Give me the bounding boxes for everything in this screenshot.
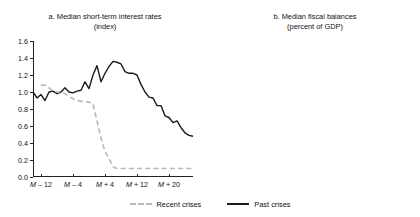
chart-figure: a. Median short-term interest rates (ind… [0, 0, 420, 217]
panel-b: b. Median fiscal balances (percent of GD… [210, 0, 420, 190]
series-line-recent-crises [41, 85, 193, 168]
y-tick-label: 1.4 [18, 54, 28, 63]
series-line-past-crises [33, 61, 193, 136]
legend-item-past-crises: Past crises [227, 200, 290, 209]
legend-item-recent-crises: Recent crises [130, 200, 202, 209]
panel-b-title-text: b. Median fiscal balances [210, 12, 420, 22]
y-tick-label: 0.6 [18, 122, 28, 131]
y-tick-mark [30, 109, 33, 110]
x-tick-mark [169, 174, 170, 177]
x-tick-mark [73, 174, 74, 177]
x-tick-mark [105, 174, 106, 177]
y-tick-label: 1.6 [18, 37, 28, 46]
y-tick-label: 1.2 [18, 71, 28, 80]
y-tick-label: 0.4 [18, 139, 28, 148]
dashed-line-icon [130, 203, 152, 205]
chart-legend: Recent crises Past crises [0, 194, 420, 214]
panel-a: a. Median short-term interest rates (ind… [0, 0, 210, 190]
y-tick-mark [30, 143, 33, 144]
legend-label-recent-crises: Recent crises [157, 200, 202, 209]
y-tick-label: 1.0 [18, 88, 28, 97]
y-tick-mark [30, 41, 33, 42]
panel-a-title: a. Median short-term interest rates (ind… [0, 12, 210, 31]
x-tick-label: M – 12 [30, 180, 52, 189]
y-tick-mark [30, 75, 33, 76]
y-tick-mark [30, 177, 33, 178]
panel-a-subtitle-text: (index) [0, 22, 210, 32]
y-tick-mark [30, 160, 33, 161]
panel-a-title-text: a. Median short-term interest rates [0, 12, 210, 22]
x-tick-label: M – 4 [64, 180, 82, 189]
y-tick-label: 0.0 [18, 173, 28, 182]
x-tick-label: M + 4 [96, 180, 114, 189]
panel-b-subtitle-text: (percent of GDP) [210, 22, 420, 32]
panel-a-plot-area: 0.00.20.40.60.81.01.21.41.6M – 12M – 4M … [33, 41, 193, 177]
solid-line-icon [227, 203, 249, 205]
x-tick-mark [137, 174, 138, 177]
legend-label-past-crises: Past crises [254, 200, 290, 209]
x-tick-label: M + 12 [126, 180, 148, 189]
panel-a-series-layer [33, 41, 193, 177]
x-tick-mark [41, 174, 42, 177]
y-tick-label: 0.8 [18, 105, 28, 114]
y-tick-label: 0.2 [18, 156, 28, 165]
y-tick-mark [30, 92, 33, 93]
y-tick-mark [30, 126, 33, 127]
x-tick-label: M + 20 [158, 180, 180, 189]
panel-b-title: b. Median fiscal balances (percent of GD… [210, 12, 420, 31]
y-tick-mark [30, 58, 33, 59]
